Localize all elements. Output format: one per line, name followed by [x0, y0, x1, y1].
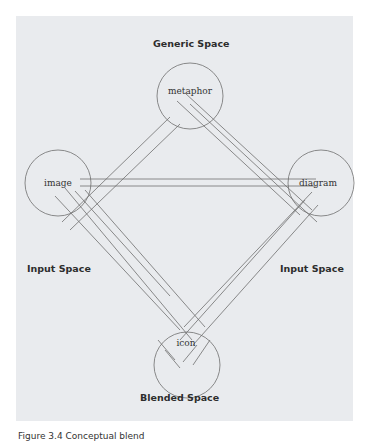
node-image: image	[44, 178, 72, 188]
connector-line	[177, 101, 300, 215]
connector-line	[85, 190, 205, 327]
connector-line	[184, 192, 312, 327]
label-input-space-left: Input Space	[27, 263, 91, 274]
connector-line	[75, 191, 170, 296]
node-icon: icon	[176, 338, 195, 348]
connector-line	[193, 205, 318, 345]
connector-line	[158, 340, 175, 360]
node-diagram: diagram	[299, 178, 337, 188]
figure-caption: Figure 3.4 Conceptual blend	[18, 431, 144, 441]
connector-line	[62, 117, 170, 222]
connector-line	[165, 350, 180, 368]
label-input-space-right: Input Space	[280, 263, 344, 274]
connector-line	[190, 104, 317, 222]
node-metaphor: metaphor	[168, 86, 213, 96]
connector-line	[185, 93, 312, 210]
label-blended-space: Blended Space	[140, 392, 219, 403]
label-generic-space: Generic Space	[153, 38, 229, 49]
